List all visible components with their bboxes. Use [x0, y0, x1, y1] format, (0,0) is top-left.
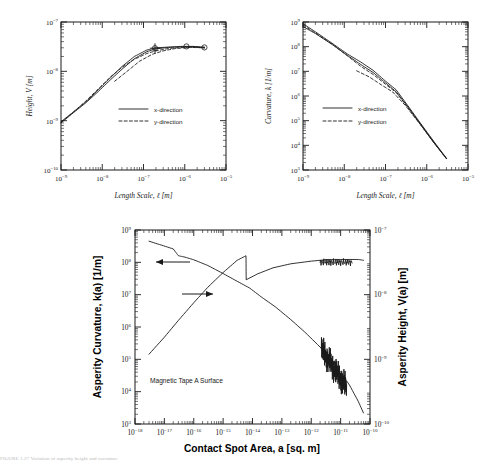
y-tick-label: 10−9	[46, 117, 59, 126]
x-tick-label: 10−6	[179, 174, 192, 183]
x-tick-label: 10−12	[304, 428, 320, 437]
arrow-to-left-axis	[156, 259, 190, 265]
x-axis-ticks	[61, 22, 226, 170]
x-axis-labels: 10−9 10−8 10−7 10−6 10−5	[297, 174, 475, 183]
y-axis-ticks	[303, 22, 468, 170]
x-tick-label: 10−6	[421, 174, 434, 183]
chart-curvature-vs-length-scale: 109108107106105104103 10−9 10−8 10−7 10−…	[255, 8, 495, 213]
x-tick-label: 10−15	[216, 428, 232, 437]
x-tick-label: 10−10	[362, 428, 378, 437]
data-curves	[303, 24, 446, 159]
x-tick-label: 10−18	[127, 428, 143, 437]
y-tick-label: 106	[291, 92, 301, 101]
y-axis-ticks	[61, 22, 226, 170]
chart-asperity-vs-contact-area: 109108107106105104103 10−710−810−910−10 …	[88, 222, 418, 456]
legend-label-y-direction: y-direction	[358, 118, 387, 125]
y-tick-label: 107	[291, 67, 301, 76]
y-axis-title: Curvature, k [1/m]	[264, 68, 273, 124]
y-tick-label: 10−8	[374, 290, 387, 299]
y-tick-label: 103	[291, 166, 301, 175]
y-tick-label: 108	[291, 42, 301, 51]
y-tick-label: 10−9	[374, 355, 387, 364]
x-tick-label: 10−5	[462, 174, 475, 183]
y-tick-label: 105	[121, 355, 131, 364]
y-axis-title: Height, V [m]	[25, 75, 34, 117]
plot-annotation: Magnetic Tape A Surface	[150, 377, 223, 385]
y-tick-label: 104	[121, 387, 131, 396]
data-curves	[61, 44, 207, 123]
x-tick-label: 10−7	[379, 174, 392, 183]
x-tick-label: 10−11	[333, 428, 348, 437]
plot-frame	[61, 22, 226, 170]
chart-height-vs-length-scale: 10−7 10−8 10−9 10−10 10−9 10−8 10−7 10−6…	[18, 8, 250, 213]
x-tick-label: 10−9	[55, 174, 68, 183]
plot-frame	[303, 22, 468, 170]
y-tick-label: 10−7	[374, 226, 387, 235]
legend: x-direction y-direction	[119, 106, 183, 125]
y-tick-label: 105	[291, 116, 301, 125]
right-y-axis-title: Asperity Height, V(a) [m]	[397, 268, 408, 387]
x-axis-labels: 10−9 10−8 10−7 10−6 10−5	[55, 174, 233, 183]
asperity-plot-svg: 109108107106105104103 10−710−810−910−10 …	[88, 222, 418, 456]
y-tick-label: 109	[121, 226, 131, 235]
y-tick-label: 108	[121, 258, 131, 267]
x-axis-ticks	[303, 22, 468, 170]
y-tick-label: 106	[121, 323, 131, 332]
x-tick-label: 10−17	[157, 428, 173, 437]
y-tick-label: 10−10	[43, 166, 58, 175]
legend-label-x-direction: x-direction	[358, 105, 387, 112]
y-axis-labels: 10−7 10−8 10−9 10−10	[43, 18, 58, 175]
x-axis-title: Contact Spot Area, a [sq. m]	[184, 443, 320, 454]
x-tick-label: 10−9	[297, 174, 310, 183]
y-tick-label: 10−8	[46, 67, 59, 76]
left-y-axis-labels: 109108107106105104103	[121, 226, 131, 429]
x-tick-label: 10−14	[245, 428, 261, 437]
legend-label-x-direction: x-direction	[154, 106, 183, 113]
height-plot-svg: 10−7 10−8 10−9 10−10 10−9 10−8 10−7 10−6…	[18, 8, 250, 213]
x-axis-title: Length Scale, ℓ [m]	[355, 191, 414, 200]
x-tick-label: 10−7	[137, 174, 150, 183]
x-axis-labels: 10−1810−1710−1610−1510−1410−1310−1210−11…	[127, 428, 378, 437]
minor-ticks	[61, 22, 226, 170]
x-tick-label: 10−8	[338, 174, 351, 183]
left-y-axis-title: Asperity Curvature, k(a) [1/m]	[92, 256, 103, 399]
legend-label-y-direction: y-direction	[154, 118, 183, 125]
x-axis-title: Length Scale, ℓ [m]	[113, 191, 172, 200]
x-tick-label: 10−8	[96, 174, 109, 183]
y-axis-labels: 109108107106105104103	[291, 18, 301, 175]
y-tick-label: 10−7	[46, 18, 59, 27]
minor-ticks	[303, 22, 468, 170]
x-tick-label: 10−5	[220, 174, 233, 183]
curvature-plot-svg: 109108107106105104103 10−9 10−8 10−7 10−…	[255, 8, 495, 213]
x-tick-label: 10−13	[274, 428, 290, 437]
figure-caption: FIGURE 1.27 Variation of asperity height…	[0, 456, 503, 471]
y-tick-label: 109	[291, 18, 301, 27]
x-tick-label: 10−16	[186, 428, 202, 437]
data-curves	[149, 241, 363, 413]
right-y-axis-labels: 10−710−810−910−10	[374, 226, 390, 429]
arrow-to-right-axis	[182, 291, 213, 297]
y-tick-label: 104	[291, 141, 301, 150]
legend: x-direction y-direction	[323, 105, 387, 125]
y-tick-label: 107	[121, 290, 131, 299]
